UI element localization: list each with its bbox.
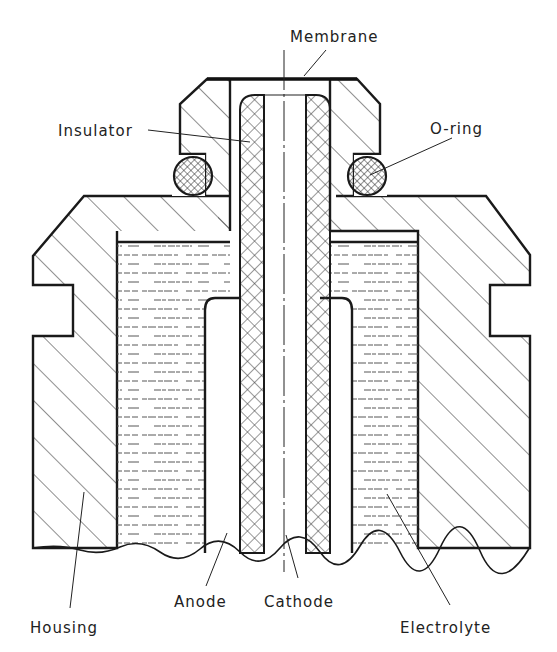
sensor-cross-section-diagram: Membrane Insulator O-ring Housing Anode … xyxy=(0,0,557,652)
label-membrane: Membrane xyxy=(290,28,378,46)
label-housing: Housing xyxy=(30,619,98,637)
cathode-leader xyxy=(286,535,298,578)
oring-left xyxy=(172,155,212,196)
label-electrolyte: Electrolyte xyxy=(400,619,491,637)
label-insulator: Insulator xyxy=(58,122,133,140)
oring-right xyxy=(348,155,387,196)
label-anode: Anode xyxy=(174,593,227,611)
label-cathode: Cathode xyxy=(264,593,334,611)
insulator xyxy=(240,95,330,553)
electrolyte-right xyxy=(330,242,418,548)
electrolyte-left xyxy=(117,242,230,548)
membrane-leader xyxy=(304,50,326,76)
label-oring: O-ring xyxy=(430,120,483,138)
